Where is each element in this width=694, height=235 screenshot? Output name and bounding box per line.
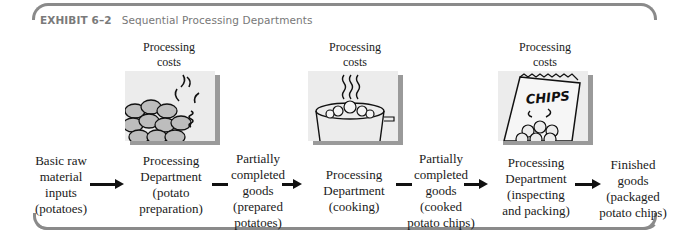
node-line: (inspecting bbox=[494, 187, 578, 203]
node-line: material bbox=[26, 169, 96, 185]
node-line: Department bbox=[314, 183, 394, 199]
label-line: Processing bbox=[305, 40, 405, 55]
node-line: Finished bbox=[596, 157, 670, 173]
flow-wip-prepared-potatoes: Partially completed goods (prepared pota… bbox=[225, 151, 291, 231]
arrow-icon bbox=[464, 183, 482, 186]
label-line: costs bbox=[305, 55, 405, 70]
potatoes-being-washed-icon bbox=[125, 71, 215, 141]
node-line: goods bbox=[596, 173, 670, 189]
node-line: Processing bbox=[130, 153, 212, 169]
flow-dept-cooking: Processing Department (cooking) bbox=[314, 167, 394, 215]
node-line: Processing bbox=[494, 155, 578, 171]
node-line: completed bbox=[225, 167, 291, 183]
label-line: Processing bbox=[495, 40, 595, 55]
node-line: (packaged bbox=[596, 189, 670, 205]
processing-costs-label-2: Processing costs bbox=[305, 40, 405, 70]
node-line: Department bbox=[130, 169, 212, 185]
processing-costs-label-3: Processing costs bbox=[495, 40, 595, 70]
node-line: inputs bbox=[26, 185, 96, 201]
flow-dept-potato-preparation: Processing Department (potato preparatio… bbox=[130, 153, 212, 217]
flow-dept-inspecting-packing: Processing Department (inspecting and pa… bbox=[494, 155, 578, 219]
exhibit-number: EXHIBIT 6–2 bbox=[40, 14, 112, 26]
label-line: costs bbox=[119, 55, 219, 70]
node-line: Department bbox=[494, 171, 578, 187]
label-line: Processing bbox=[119, 40, 219, 55]
arrow-icon bbox=[575, 183, 595, 186]
node-line: Partially bbox=[225, 151, 291, 167]
node-line: Basic raw bbox=[26, 153, 96, 169]
node-line: potatoes) bbox=[225, 215, 291, 231]
label-line: costs bbox=[495, 55, 595, 70]
node-line: (cooked bbox=[405, 199, 477, 215]
processing-costs-label-1: Processing costs bbox=[119, 40, 219, 70]
arrow-icon bbox=[90, 183, 118, 186]
node-line: and packing) bbox=[494, 203, 578, 219]
node-line: (prepared bbox=[225, 199, 291, 215]
node-line: completed bbox=[405, 167, 477, 183]
node-line: preparation) bbox=[130, 201, 212, 217]
node-line: (potatoes) bbox=[26, 201, 96, 217]
node-line: (cooking) bbox=[314, 199, 394, 215]
flow-wip-cooked-potato-chips: Partially completed goods (cooked potato… bbox=[405, 151, 477, 231]
frame-top-right-border bbox=[320, 3, 657, 20]
node-line: potato chips) bbox=[405, 215, 477, 231]
flow-raw-material-inputs: Basic raw material inputs (potatoes) bbox=[26, 153, 96, 217]
cooking-pot-icon bbox=[308, 71, 398, 141]
node-line: (potato bbox=[130, 185, 212, 201]
node-line: Processing bbox=[314, 167, 394, 183]
exhibit-title: EXHIBIT 6–2Sequential Processing Departm… bbox=[40, 14, 313, 26]
arrow-icon bbox=[282, 183, 296, 186]
flow-finished-goods: Finished goods (packaged potato chips) bbox=[596, 157, 670, 221]
node-line: potato chips) bbox=[596, 205, 670, 221]
node-line: Partially bbox=[405, 151, 477, 167]
chips-bag-icon: CHIPS bbox=[498, 71, 588, 141]
exhibit-caption: Sequential Processing Departments bbox=[122, 14, 313, 26]
